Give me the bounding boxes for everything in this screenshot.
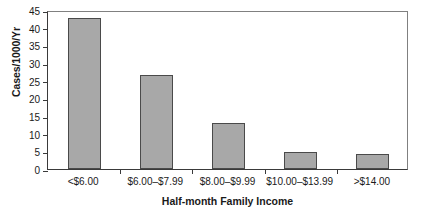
bar-chart-figure: Cases/1000/Yr 051015202530354045 Half-mo… [0, 0, 421, 208]
y-axis-tick-mark [43, 65, 48, 66]
x-axis-tick-mark [337, 169, 338, 174]
y-axis-tick-label: 20 [14, 93, 40, 106]
y-axis-tick-mark [43, 153, 48, 154]
y-axis-tick-mark [43, 82, 48, 83]
bar [284, 152, 317, 169]
y-axis-tick-label: 40 [14, 23, 40, 36]
x-axis-tick-label: <$6.00 [47, 176, 119, 188]
bar [140, 75, 173, 169]
bar [212, 123, 245, 169]
y-axis-tick-label: 0 [14, 164, 40, 177]
x-axis-tick-mark [265, 169, 266, 174]
y-axis-tick-label: 5 [14, 146, 40, 159]
y-axis-tick-mark [43, 118, 48, 119]
y-axis-tick-label: 30 [14, 58, 40, 71]
y-axis-tick-mark [43, 12, 48, 13]
y-axis-tick-label: 25 [14, 76, 40, 89]
y-axis-tick-label: 45 [14, 5, 40, 18]
x-axis-tick-label: $8.00–$9.99 [191, 176, 263, 188]
y-axis-tick-mark [43, 29, 48, 30]
y-axis-tick-mark [43, 135, 48, 136]
plot-area: 051015202530354045 [47, 11, 408, 170]
x-axis-tick-mark [120, 169, 121, 174]
x-axis-tick-mark [192, 169, 193, 174]
y-axis-tick-mark [43, 171, 48, 172]
x-axis-tick-label: $10.00–$13.99 [264, 176, 336, 188]
x-axis-tick-label: >$14.00 [336, 176, 408, 188]
x-axis-title: Half-month Family Income [47, 195, 408, 207]
y-axis-tick-label: 15 [14, 111, 40, 124]
bar [68, 18, 101, 169]
y-axis-tick-mark [43, 100, 48, 101]
x-axis-tick-label: $6.00–$7.99 [119, 176, 191, 188]
bar [356, 154, 389, 169]
y-axis-tick-label: 10 [14, 129, 40, 142]
y-axis-tick-mark [43, 47, 48, 48]
y-axis-tick-label: 35 [14, 40, 40, 53]
